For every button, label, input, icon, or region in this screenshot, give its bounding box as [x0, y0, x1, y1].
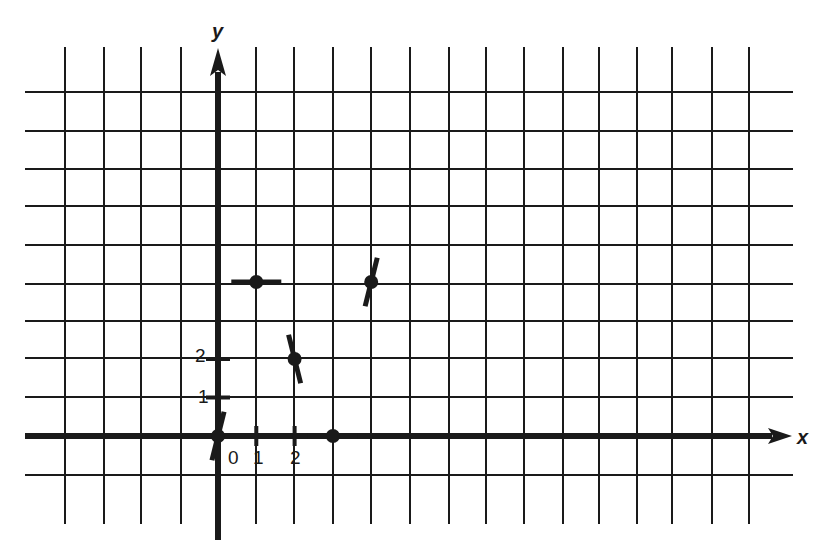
x-axis-label: x [796, 426, 809, 448]
point-dot [364, 275, 378, 289]
y-axis-arrow-icon [210, 48, 226, 76]
grid-lines [25, 47, 793, 524]
data-point [231, 275, 281, 289]
origin-label: 0 [228, 447, 239, 468]
point-dot [211, 429, 225, 443]
point-dot [249, 275, 263, 289]
x-tick-label-1: 1 [253, 447, 264, 468]
data-point [308, 429, 358, 443]
point-dot [326, 429, 340, 443]
coordinate-grid-chart: y x 0 1 2 2 1 [0, 0, 829, 552]
y-axis-label: y [211, 20, 224, 42]
x-tick-label-2: 2 [290, 447, 301, 468]
y-tick-label-2: 2 [195, 345, 206, 366]
point-dot [288, 352, 302, 366]
y-tick-label-1: 1 [198, 386, 209, 407]
